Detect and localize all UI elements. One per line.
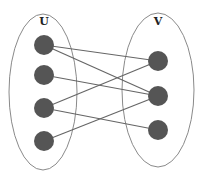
edge-u3-v1 xyxy=(44,61,158,108)
node-u1 xyxy=(34,35,54,55)
edge-u4-v2 xyxy=(44,96,158,141)
node-v2 xyxy=(148,86,168,106)
bipartite-graph: UV xyxy=(0,0,201,178)
edge-u2-v2 xyxy=(44,75,158,96)
node-u3 xyxy=(34,98,54,118)
node-u4 xyxy=(34,131,54,151)
node-v1 xyxy=(148,51,168,71)
node-u2 xyxy=(34,65,54,85)
node-v3 xyxy=(148,120,168,140)
set-u-label: U xyxy=(39,15,49,28)
set-v-label: V xyxy=(153,15,163,28)
